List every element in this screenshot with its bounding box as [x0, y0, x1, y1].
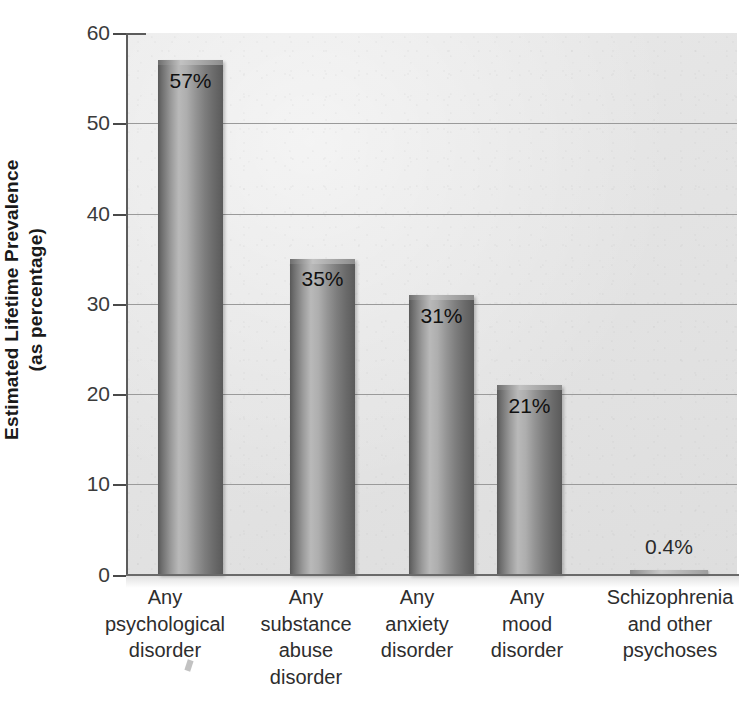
bar-any-psychological-disorder: [158, 60, 223, 575]
y-axis-line: [126, 33, 128, 576]
bar-any-substance-abuse-disorder: [290, 259, 355, 575]
bar-value-label-4: 21%: [497, 394, 562, 418]
bar-value-label-5: 0.4%: [630, 535, 708, 559]
y-tick-label-20: 20: [56, 382, 110, 406]
x-category-label-4-line-1: Any: [472, 584, 582, 611]
tickmark-0: [113, 575, 126, 577]
x-category-label-3: Any anxiety disorder: [362, 584, 472, 664]
x-category-label-5-line-2: and other: [590, 611, 750, 638]
y-tick-label-60: 60: [56, 21, 110, 45]
bar-value-label-3: 31%: [409, 304, 474, 328]
chart-figure: Estimated Lifetime Prevalence (as percen…: [0, 0, 756, 702]
x-category-label-4: Any mood disorder: [472, 584, 582, 664]
bar-any-anxiety-disorder: [409, 295, 474, 575]
tickmark-10: [113, 484, 126, 486]
tickmark-60: [113, 33, 126, 35]
bar-cap: [290, 259, 355, 264]
x-category-label-3-line-2: anxiety: [362, 611, 472, 638]
y-tick-label-10: 10: [56, 472, 110, 496]
x-category-label-3-line-3: disorder: [362, 637, 472, 664]
x-category-label-1: Any psychological disorder: [100, 584, 230, 664]
y-tick-label-30: 30: [56, 292, 110, 316]
y-axis-title-line1: Estimated Lifetime Prevalence: [1, 160, 22, 440]
x-category-label-4-line-2: mood: [472, 611, 582, 638]
x-category-label-5-line-3: psychoses: [590, 637, 750, 664]
y-axis-title-line2: (as percentage): [24, 160, 48, 440]
x-category-label-3-line-1: Any: [362, 584, 472, 611]
x-category-label-1-line-1: Any: [100, 584, 230, 611]
x-category-label-2: Any substance abuse disorder: [247, 584, 365, 690]
tickmark-40: [113, 214, 126, 216]
y-tick-label-50: 50: [56, 111, 110, 135]
bar-value-label-1: 57%: [158, 69, 223, 93]
bar-cap: [158, 60, 223, 65]
bar-cap: [409, 295, 474, 300]
x-axis-line: [126, 574, 739, 576]
y-tick-label-0: 0: [56, 563, 110, 587]
bar-value-label-2: 35%: [290, 267, 355, 291]
y-tick-label-40: 40: [56, 202, 110, 226]
y-axis-top-stub: [126, 33, 146, 35]
x-category-label-5-line-1: Schizophrenia: [590, 584, 750, 611]
x-category-label-4-line-3: disorder: [472, 637, 582, 664]
x-category-label-5: Schizophrenia and other psychoses: [590, 584, 750, 664]
x-category-label-2-line-1: Any: [247, 584, 365, 611]
tickmark-20: [113, 394, 126, 396]
x-category-label-2-line-4: disorder: [247, 664, 365, 691]
x-category-label-1-line-2: psychological: [100, 611, 230, 638]
x-category-label-1-line-3: disorder: [100, 637, 230, 664]
tickmark-50: [113, 123, 126, 125]
x-category-label-2-line-3: abuse: [247, 637, 365, 664]
x-category-label-2-line-2: substance: [247, 611, 365, 638]
tickmark-30: [113, 304, 126, 306]
bar-cap: [497, 385, 562, 390]
plot-area: 57% 35% 31% 21% 0.4%: [126, 33, 737, 575]
y-axis-title: Estimated Lifetime Prevalence (as percen…: [0, 0, 48, 600]
